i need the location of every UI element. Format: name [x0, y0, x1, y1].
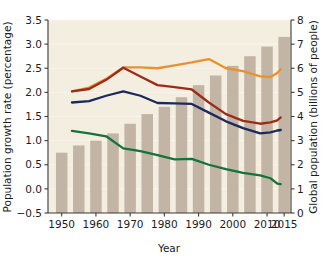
ytick-label-0: −0.5 — [17, 207, 43, 219]
xtick-label-1970: 1970 — [117, 218, 144, 230]
x-axis-ticks: 19501960197019801990200020102015 — [48, 213, 297, 230]
x-axis-title: Year — [157, 242, 181, 254]
xtick-label-2000: 2000 — [219, 218, 246, 230]
bar-1960 — [90, 141, 102, 213]
y2tick-label-8: 8 — [297, 14, 304, 26]
y2tick-label-4: 4 — [297, 110, 304, 122]
chart-canvas: 19501960197019801990200020102015 −0.50.0… — [0, 0, 325, 260]
bar-2015 — [278, 37, 290, 213]
xtick-label-2015: 2015 — [271, 218, 298, 230]
ytick-label-2: 0.5 — [25, 158, 42, 170]
xtick-label-1960: 1960 — [83, 218, 110, 230]
y-axis-right-title: Global population (billions of people) — [307, 20, 319, 214]
bar-1950 — [56, 153, 68, 213]
bar-2010 — [261, 47, 273, 213]
population-growth-chart: 19501960197019801990200020102015 −0.50.0… — [0, 0, 325, 260]
xtick-label-1950: 1950 — [48, 218, 75, 230]
ytick-label-5: 2.0 — [25, 86, 42, 98]
xtick-label-1980: 1980 — [151, 218, 178, 230]
y2tick-label-7: 7 — [297, 38, 304, 50]
y2tick-label-0: 0 — [297, 207, 304, 219]
y-axis-left-title: Population growth rate (percentage) — [1, 21, 13, 212]
ytick-label-3: 1.0 — [25, 134, 42, 146]
y-axis-left-ticks: −0.50.00.51.01.52.02.53.03.5 — [17, 14, 49, 219]
bar-1980 — [159, 107, 171, 213]
y2tick-label-5: 5 — [297, 86, 304, 98]
bar-1975 — [142, 114, 154, 213]
y-axis-right-ticks: 012345678 — [291, 14, 304, 219]
xtick-label-1990: 1990 — [185, 218, 212, 230]
bar-2005 — [244, 56, 256, 213]
bar-1970 — [124, 124, 136, 213]
y2tick-label-1: 1 — [297, 183, 304, 195]
bar-2000 — [227, 66, 239, 213]
y2tick-label-6: 6 — [297, 62, 304, 74]
bar-1955 — [73, 145, 85, 213]
bar-1995 — [210, 75, 222, 213]
y2tick-label-2: 2 — [297, 158, 304, 170]
ytick-label-7: 3.0 — [25, 38, 42, 50]
ytick-label-1: 0.0 — [25, 183, 42, 195]
ytick-label-6: 2.5 — [25, 62, 42, 74]
ytick-label-8: 3.5 — [25, 14, 42, 26]
y2tick-label-3: 3 — [297, 134, 304, 146]
ytick-label-4: 1.5 — [25, 110, 42, 122]
bar-1985 — [176, 97, 188, 213]
